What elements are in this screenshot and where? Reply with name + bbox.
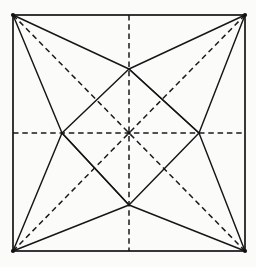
vertex-center (127, 131, 131, 135)
geometric-diagram (0, 0, 256, 267)
vertex-corner-top-left (11, 13, 15, 17)
vertex-corner-top-right (243, 13, 247, 17)
figure-container (0, 0, 256, 267)
vertex-corner-bottom-left (11, 249, 15, 253)
vertex-corner-bottom-right (243, 249, 247, 253)
